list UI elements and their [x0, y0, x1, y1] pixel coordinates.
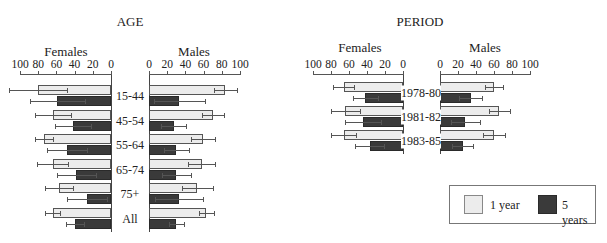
female-tick-mark — [20, 71, 21, 75]
female-bar-1-year — [53, 208, 111, 218]
female-tick-mark — [403, 71, 404, 75]
legend-label-1-year: 1 year — [490, 198, 520, 213]
category-label: All — [122, 211, 137, 226]
error-cap — [353, 96, 354, 101]
category-label: 55-64 — [116, 138, 144, 153]
error-cap — [503, 85, 504, 90]
error-cap — [87, 148, 88, 153]
error-bar — [202, 115, 224, 116]
error-cap — [345, 120, 346, 125]
error-cap — [215, 137, 216, 142]
category-label: 1981-82 — [401, 110, 441, 125]
error-cap — [161, 124, 162, 129]
female-tick-mark — [385, 71, 386, 75]
error-bar — [452, 146, 474, 147]
male-tick-mark — [476, 71, 477, 75]
error-bar — [45, 188, 72, 189]
male-bar-1-year — [149, 208, 206, 218]
female-tick-label: 100 — [304, 58, 321, 70]
error-cap — [67, 88, 68, 93]
male-tick-mark — [458, 71, 459, 75]
error-bar — [331, 111, 360, 112]
period-males-label: Males — [455, 40, 515, 56]
error-cap — [47, 148, 48, 153]
error-bar — [182, 188, 213, 189]
female-x-axis — [20, 74, 111, 75]
legend-label-5-years: 5 years — [562, 198, 595, 228]
error-cap — [85, 99, 86, 104]
error-cap — [333, 85, 334, 90]
error-cap — [154, 99, 155, 104]
error-bar — [35, 139, 53, 140]
female-tick-mark — [56, 71, 57, 75]
error-cap — [155, 197, 156, 202]
error-cap — [203, 197, 204, 202]
male-tick-label: 40 — [470, 58, 482, 70]
female-tick-label: 40 — [361, 58, 373, 70]
male-tick-label: 0 — [146, 58, 152, 70]
male-tick-mark — [167, 71, 168, 75]
female-tick-mark — [331, 71, 332, 75]
male-tick-label: 60 — [488, 58, 500, 70]
male-tick-mark — [240, 71, 241, 75]
error-bar — [30, 101, 85, 102]
male-tick-label: 40 — [180, 58, 192, 70]
error-cap — [30, 99, 31, 104]
error-cap — [452, 144, 453, 149]
error-cap — [53, 137, 54, 142]
male-tick-mark — [185, 71, 186, 75]
error-cap — [164, 148, 165, 153]
male-tick-mark — [149, 71, 150, 75]
error-cap — [191, 173, 192, 178]
error-cap — [35, 137, 36, 142]
error-cap — [451, 120, 452, 125]
male-tick-mark — [222, 71, 223, 75]
error-cap — [169, 222, 170, 227]
error-cap — [214, 88, 215, 93]
error-cap — [505, 133, 506, 138]
period-females-label: Females — [330, 40, 390, 56]
error-bar — [155, 199, 202, 200]
error-cap — [473, 144, 474, 149]
female-tick-mark — [349, 71, 350, 75]
male-tick-mark — [530, 71, 531, 75]
error-cap — [45, 211, 46, 216]
error-bar — [188, 164, 215, 165]
error-bar — [164, 150, 189, 151]
error-bar — [66, 224, 84, 225]
legend-swatch-5-years — [538, 195, 557, 214]
error-cap — [37, 162, 38, 167]
male-tick-mark — [204, 71, 205, 75]
error-cap — [199, 211, 200, 216]
category-label: 1978-80 — [401, 86, 441, 101]
error-bar — [161, 126, 186, 127]
error-cap — [331, 133, 332, 138]
error-cap — [68, 162, 69, 167]
category-label: 65-74 — [116, 162, 144, 177]
error-cap — [214, 211, 215, 216]
error-cap — [55, 124, 56, 129]
error-cap — [459, 96, 460, 101]
error-cap — [480, 120, 481, 125]
error-cap — [184, 222, 185, 227]
error-cap — [57, 173, 58, 178]
error-cap — [355, 144, 356, 149]
error-cap — [189, 148, 190, 153]
error-cap — [67, 197, 68, 202]
female-tick-label: 0 — [400, 58, 406, 70]
female-bar-1-year — [44, 134, 111, 144]
error-cap — [485, 85, 486, 90]
male-tick-label: 80 — [506, 58, 518, 70]
female-tick-label: 80 — [325, 58, 337, 70]
error-cap — [510, 109, 511, 114]
error-cap — [186, 124, 187, 129]
error-cap — [237, 88, 238, 93]
female-x-axis — [313, 74, 403, 75]
error-bar — [353, 98, 378, 99]
male-tick-mark — [440, 71, 441, 75]
female-tick-label: 20 — [87, 58, 99, 70]
error-bar — [45, 213, 60, 214]
error-bar — [55, 126, 91, 127]
female-tick-mark — [313, 71, 314, 75]
error-bar — [9, 90, 67, 91]
